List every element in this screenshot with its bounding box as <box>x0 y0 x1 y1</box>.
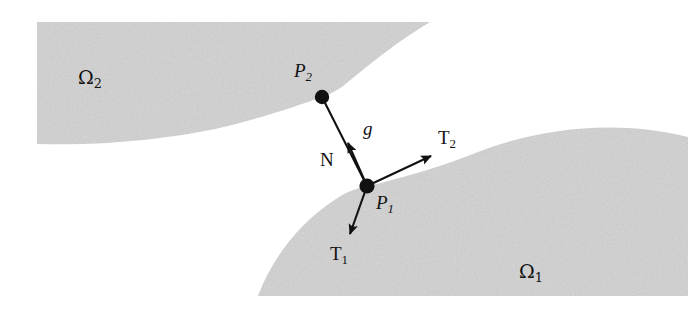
vector-label-t1: T1 <box>330 244 348 267</box>
point-label-p2-subscript: 2 <box>306 69 312 84</box>
vector-label-t2: T2 <box>438 128 456 151</box>
point-label-p1-subscript: 1 <box>388 201 394 216</box>
point-label-p2-base: P <box>294 60 306 81</box>
vector-label-t1-base: T <box>330 243 342 264</box>
point-label-p1-base: P <box>376 192 388 213</box>
point-label-p1: P1 <box>376 193 394 216</box>
vector-label-t2-subscript: 2 <box>450 136 456 151</box>
region-label-omega1-subscript: 1 <box>535 270 543 285</box>
vector-label-t2-base: T <box>438 127 450 148</box>
vector-label-n: N <box>320 150 334 169</box>
region-label-omega1-base: Ω <box>519 260 535 282</box>
point-p1-marker <box>359 178 374 193</box>
region-label-omega2-subscript: 2 <box>94 76 102 91</box>
contact-geometry-figure: Ω2 Ω1 P2 P1 g N T2 T1 <box>0 0 688 311</box>
segment-label-g: g <box>363 119 373 138</box>
region-label-omega2: Ω2 <box>78 68 102 91</box>
region-label-omega1: Ω1 <box>519 262 543 285</box>
point-p2-marker <box>315 90 329 104</box>
region-label-omega2-base: Ω <box>78 66 94 88</box>
vector-label-t1-subscript: 1 <box>342 252 348 267</box>
point-label-p2: P2 <box>294 61 312 84</box>
